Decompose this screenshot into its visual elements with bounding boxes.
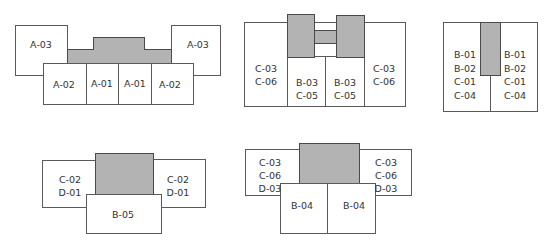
- g5-divider: [327, 183, 328, 234]
- g4-core: [95, 153, 154, 195]
- g1-label-cell-4: A-02: [155, 78, 185, 91]
- g1-divider-3: [151, 63, 152, 105]
- g4-label-left: C-02 D-01: [55, 173, 85, 199]
- g2-label-cell-2: B-03 C-05: [330, 76, 360, 102]
- g1-label-cell-3: A-01: [120, 77, 150, 90]
- g5-core: [299, 143, 360, 184]
- g3-core: [480, 22, 501, 76]
- g2-label-cell-1: B-03 C-05: [292, 76, 322, 102]
- g1-label-cell-2: A-01: [87, 77, 117, 90]
- g2-label-left: C-03 C-06: [251, 62, 281, 88]
- g4-label-bottom: B-05: [108, 208, 138, 221]
- g3-label-right: B-01 B-02 C-01 C-04: [502, 48, 528, 102]
- g2-core-bridge: [314, 30, 337, 44]
- g5-label-right: C-03 C-06 D-03: [371, 156, 401, 195]
- g1-label-right: A-03: [183, 38, 213, 51]
- g1-label-left: A-03: [26, 38, 56, 51]
- g1-core-upper: [93, 37, 145, 50]
- g1-label-cell-1: A-02: [49, 78, 79, 91]
- g2-label-right: C-03 C-06: [369, 62, 399, 88]
- g5-label-left: C-03 C-06 D-03: [255, 156, 285, 195]
- g5-label-cell-1: B-04: [287, 199, 317, 212]
- g2-divider-2: [325, 57, 326, 107]
- g1-divider-2: [118, 63, 119, 105]
- g1-core-lower: [67, 49, 172, 64]
- g2-core-right: [336, 15, 365, 58]
- g3-label-left: B-01 B-02 C-01 C-04: [452, 48, 478, 102]
- g5-label-cell-2: B-04: [339, 199, 369, 212]
- g4-label-right: C-02 D-01: [163, 173, 193, 199]
- g2-core-left: [287, 14, 315, 58]
